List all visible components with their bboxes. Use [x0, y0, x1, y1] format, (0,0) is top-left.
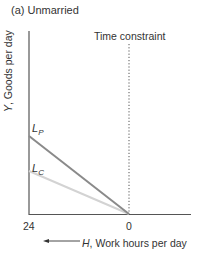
x-axis-variable: H	[82, 237, 90, 249]
x-tick-0: 0	[126, 220, 132, 232]
x-axis-label-text: , Work hours per day	[90, 237, 187, 249]
lc-label-sub: C	[38, 168, 44, 177]
lp-label: LP	[32, 122, 43, 137]
lc-line	[29, 171, 129, 214]
x-axis-label: H, Work hours per day	[82, 237, 187, 249]
arrow-left-icon	[43, 239, 49, 243]
x-tick-24: 24	[23, 220, 35, 232]
lc-label: LC	[32, 162, 44, 177]
lp-line	[29, 136, 129, 214]
lp-label-sub: P	[38, 128, 43, 137]
